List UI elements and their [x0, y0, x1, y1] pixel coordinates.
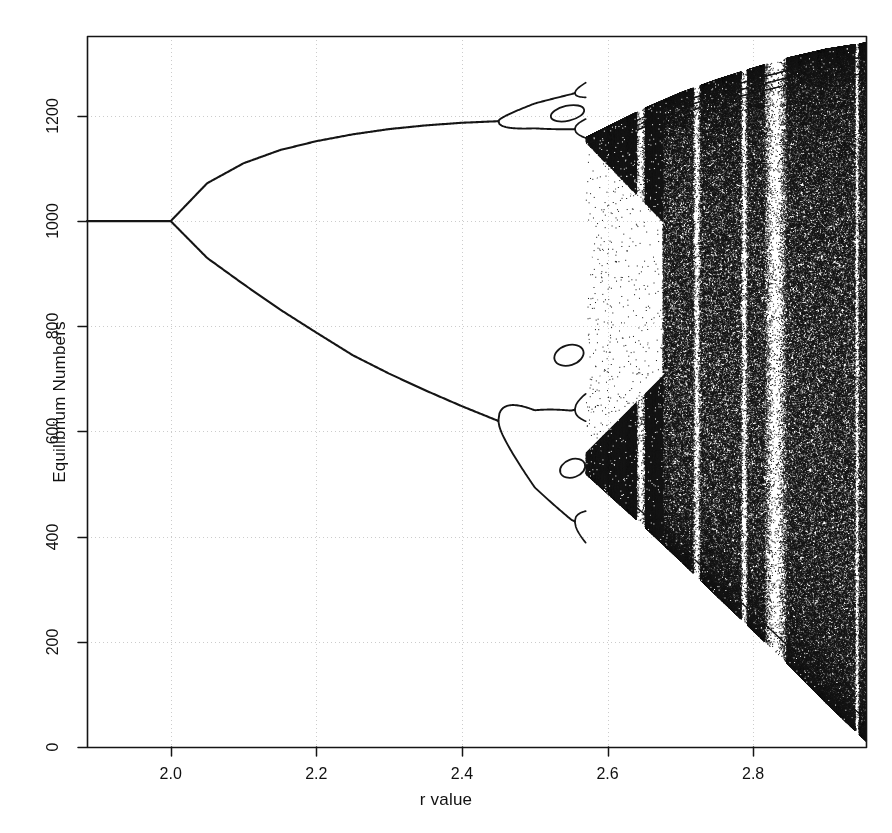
x-axis-title: r value: [0, 790, 892, 810]
y-tick-label: 1200: [44, 88, 62, 144]
y-tick-label: 400: [44, 509, 62, 565]
y-tick-label: 600: [44, 403, 62, 459]
x-tick-label: 2.4: [432, 765, 492, 783]
x-tick-label: 2.0: [141, 765, 201, 783]
bifurcation-figure: Equilibrium Numbers r value 020040060080…: [0, 0, 892, 833]
y-tick-label: 800: [44, 298, 62, 354]
y-tick-label: 0: [44, 719, 62, 775]
bifurcation-plot-canvas: [0, 0, 892, 833]
y-tick-label: 200: [44, 614, 62, 670]
y-tick-label: 1000: [44, 193, 62, 249]
x-tick-label: 2.8: [723, 765, 783, 783]
x-tick-label: 2.2: [286, 765, 346, 783]
x-tick-label: 2.6: [578, 765, 638, 783]
